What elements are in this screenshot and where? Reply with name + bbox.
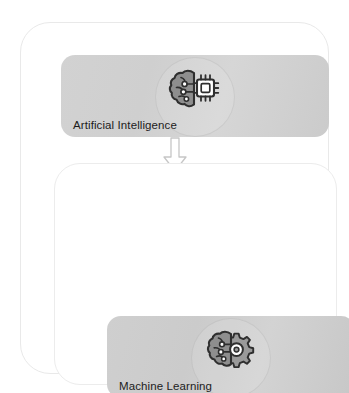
machine-learning-container: Machine Learning: [54, 163, 337, 385]
artificial-intelligence-label: Artificial Intelligence: [73, 119, 177, 131]
brain-gear-icon: [202, 324, 260, 382]
machine-learning-card[interactable]: Machine Learning: [107, 316, 349, 393]
machine-learning-label: Machine Learning: [119, 380, 212, 392]
artificial-intelligence-container: Artificial Intelligence: [20, 22, 329, 374]
brain-chip-icon: [166, 63, 224, 121]
artificial-intelligence-card[interactable]: Artificial Intelligence: [61, 55, 329, 137]
